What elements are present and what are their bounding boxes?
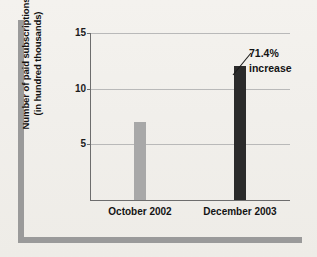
y-tick-label-15: 15 — [64, 28, 86, 38]
annotation-line-1: 71.4% — [249, 46, 311, 61]
y-tick-label-5: 5 — [64, 139, 86, 149]
y-axis-title: Number of paid subscriptions (in hundred… — [20, 0, 43, 139]
bar-chart: 15 10 5 October 2002 December 2003 Numbe… — [0, 0, 317, 257]
y-tick-label-10: 10 — [64, 84, 86, 94]
annotation-increase: 71.4% increase — [249, 46, 311, 76]
y-axis-title-line-1: Number of paid subscriptions — [20, 0, 32, 139]
y-tick-mark-5 — [87, 144, 91, 145]
y-tick-labels: 15 10 5 — [62, 0, 86, 257]
x-axis-line — [90, 200, 290, 201]
x-tick-label-december-2003: December 2003 — [190, 206, 290, 218]
gridline-15 — [90, 33, 290, 34]
gridline-5 — [90, 144, 290, 145]
y-tick-mark-10 — [87, 89, 91, 90]
y-axis-title-line-2: (in hundred thousands) — [31, 0, 43, 139]
y-axis-line — [90, 33, 91, 201]
bar-october-2002 — [134, 122, 146, 200]
gridline-10 — [90, 89, 290, 90]
bar-december-2003 — [234, 66, 246, 200]
y-tick-mark-15 — [87, 33, 91, 34]
annotation-line-2: increase — [249, 61, 311, 76]
x-tick-label-october-2002: October 2002 — [90, 206, 190, 218]
